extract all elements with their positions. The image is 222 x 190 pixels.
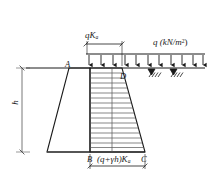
label-point-b: B <box>87 155 92 164</box>
ground-support-symbol-right <box>170 69 183 77</box>
pressure-diagram-outline <box>90 68 145 152</box>
label-surcharge-load: q (kN/m2) <box>153 38 188 47</box>
label-surcharge-pressure: qKa <box>85 31 98 41</box>
label-surcharge-load-text: q (kN/m <box>153 37 182 47</box>
retaining-wall-section <box>47 68 90 152</box>
label-surcharge-load-close: ) <box>185 37 188 47</box>
label-surcharge-pressure-text: qK <box>85 30 96 40</box>
label-base-pressure: (q+γh)Ka <box>97 155 130 165</box>
label-surcharge-pressure-subscript: a <box>96 34 99 40</box>
label-base-pressure-prefix: (q+ <box>97 154 111 164</box>
surcharge-load-band <box>86 54 205 65</box>
pressure-hatch-lines <box>90 73 144 148</box>
surcharge-arrow-group <box>89 55 203 65</box>
label-wall-height: h <box>11 100 20 105</box>
height-dimension-h <box>16 68 30 152</box>
ground-support-symbols <box>148 69 183 77</box>
label-base-pressure-subscript: a <box>128 158 131 164</box>
ground-support-symbol-left <box>148 69 161 77</box>
label-base-pressure-middle: h)K <box>114 154 128 164</box>
label-point-c: C <box>141 155 147 164</box>
label-point-d: D <box>120 72 126 81</box>
label-point-a: A <box>65 60 70 69</box>
